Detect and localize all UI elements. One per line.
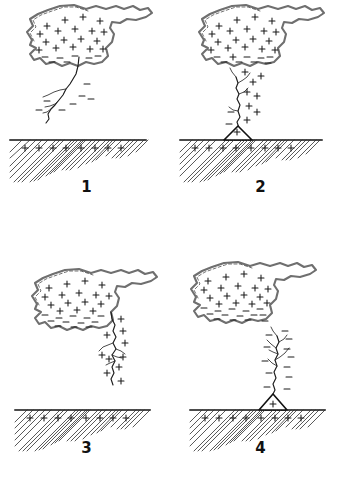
stroke-branch — [116, 349, 125, 354]
panel-1-illustration — [0, 0, 173, 239]
channel-charges-1 — [36, 84, 94, 110]
ground-charges — [22, 145, 124, 151]
lightning-sequence-figure: 1 — [0, 0, 347, 478]
panel-2: 2 — [174, 0, 347, 239]
panel-label-4: 4 — [174, 439, 347, 457]
ground-1 — [10, 140, 148, 182]
stroke-branch — [99, 343, 113, 351]
panel-4: 4 — [174, 239, 347, 478]
ground-hatching — [10, 140, 148, 182]
ground-streamer-cone — [224, 126, 252, 140]
panel-label-3: 3 — [0, 439, 173, 457]
panel-1: 1 — [0, 0, 173, 239]
channel-charges-2 — [226, 69, 264, 124]
ground-hatching — [180, 140, 320, 182]
panel-label-2: 2 — [174, 178, 347, 196]
panel-2-illustration — [174, 0, 347, 239]
stroke-branch — [279, 335, 287, 342]
panel-label-1: 1 — [0, 178, 173, 196]
ground-2 — [180, 126, 322, 182]
stroke-branch — [230, 68, 236, 77]
panel-3: 3 — [0, 239, 173, 478]
dart-leader-channel — [111, 312, 116, 385]
stroke-branch — [229, 107, 238, 111]
stroke-branch — [238, 73, 250, 83]
lightning-stroke-1 — [43, 57, 79, 123]
